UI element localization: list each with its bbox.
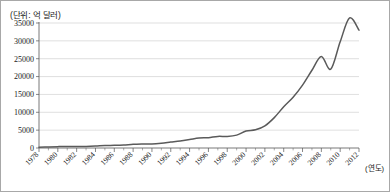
x-tick-label: 2002 <box>249 150 266 167</box>
x-tick-label: 2008 <box>306 150 323 167</box>
x-tick-label: 2000 <box>230 150 247 167</box>
x-axis-caption-group: (연도) <box>365 164 385 173</box>
x-axis-labels-group: 1978198019821984198619881990199219941996… <box>23 150 360 167</box>
data-series-line <box>39 18 359 148</box>
x-tick-label: 2012 <box>343 150 360 167</box>
plot-area: 05000100001500020000250003000035000 1978… <box>1 1 390 192</box>
x-tick-label: 1998 <box>212 150 229 167</box>
x-tick-label: 1986 <box>99 150 116 167</box>
x-tick-label: 1994 <box>174 150 191 167</box>
gridlines-group <box>39 23 359 130</box>
x-tick-label: 1980 <box>42 150 59 167</box>
y-tick-label: 5000 <box>18 126 34 135</box>
x-tick-marks-group <box>39 148 359 152</box>
y-tick-label: 20000 <box>14 72 34 81</box>
x-tick-label: 1978 <box>23 150 40 167</box>
x-tick-label: 1984 <box>80 150 97 167</box>
y-tick-label: 25000 <box>14 55 34 64</box>
y-tick-label: 10000 <box>14 108 34 117</box>
chart-figure: (단위: 억 달러) 05000100001500020000250003000… <box>0 0 390 192</box>
y-tick-label: 30000 <box>14 37 34 46</box>
line-chart-svg: 05000100001500020000250003000035000 1978… <box>1 1 390 192</box>
x-tick-label: 1990 <box>136 150 153 167</box>
x-tick-label: 2010 <box>324 150 341 167</box>
y-tick-label: 35000 <box>14 19 34 28</box>
x-tick-label: 1996 <box>193 150 210 167</box>
x-tick-label: 1982 <box>61 150 78 167</box>
x-tick-label: 1992 <box>155 150 172 167</box>
x-tick-label: 1988 <box>117 150 134 167</box>
y-tick-marks-group <box>36 23 39 148</box>
y-axis-labels-group: 05000100001500020000250003000035000 <box>14 19 34 153</box>
y-tick-label: 15000 <box>14 90 34 99</box>
x-axis-caption: (연도) <box>365 164 385 173</box>
x-tick-label: 2006 <box>287 150 304 167</box>
x-tick-label: 2004 <box>268 150 285 167</box>
